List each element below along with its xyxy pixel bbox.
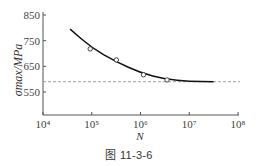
data-point: [114, 58, 118, 62]
x-axis-label: N: [135, 130, 144, 142]
y-tick-label: 750: [24, 35, 41, 47]
x-tick-label: 10⁴: [36, 118, 51, 130]
x-tick-label: 10⁶: [133, 118, 148, 130]
data-point: [165, 78, 169, 82]
y-tick-label: 850: [24, 9, 41, 21]
x-tick-label: 10⁵: [84, 118, 99, 130]
data-point: [88, 47, 92, 51]
sn-curve-chart: 55065075085010⁴10⁵10⁶10⁷10⁸ σmax/MPaN: [0, 0, 258, 145]
x-tick-label: 10⁸: [231, 118, 246, 130]
y-tick-label: 550: [24, 86, 41, 98]
axes: [43, 12, 239, 115]
figure-caption: 图 11-3-6: [0, 146, 258, 162]
data-point: [141, 73, 145, 77]
x-tick-label: 10⁷: [182, 118, 197, 130]
y-tick-label: 650: [24, 60, 41, 72]
y-axis-label: σmax/MPa: [11, 44, 25, 97]
